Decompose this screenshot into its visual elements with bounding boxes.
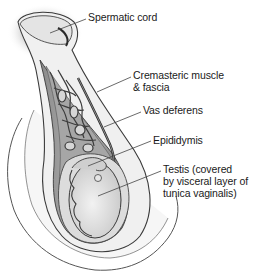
label-text: Epididymis [153,134,203,146]
label-text: by visceral layer of [163,175,248,187]
testis-body [69,162,121,238]
label-text: Spermatic cord [88,11,157,23]
label-text: Cremasteric muscle [133,69,224,81]
anatomy-illustration [0,0,261,278]
label-text: & fascia [133,81,224,93]
label-text: Vas deferens [143,104,203,116]
label-text: tunica vaginalis) [163,187,248,199]
label-cremasteric-muscle: Cremasteric muscle & fascia [133,69,224,93]
label-spermatic-cord: Spermatic cord [88,11,157,23]
label-testis: Testis (covered by visceral layer of tun… [163,163,248,199]
leader-cremasteric-muscle [97,77,131,92]
anatomy-diagram: Spermatic cord Cremasteric muscle & fasc… [0,0,261,278]
label-epididymis: Epididymis [153,134,203,146]
label-vas-deferens: Vas deferens [143,104,203,116]
label-text: Testis (covered [163,163,248,175]
